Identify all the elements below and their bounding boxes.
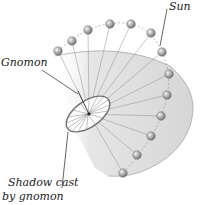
shadow-label-line1: Shadow cast <box>8 176 79 189</box>
sun-sphere <box>54 47 63 56</box>
shadow-label-line2: by gnomon <box>2 190 64 203</box>
sun-sphere <box>84 26 93 35</box>
sun-sphere <box>133 151 142 160</box>
sun-leader-line <box>160 9 167 46</box>
sun-sphere <box>158 48 167 57</box>
sun-sphere <box>147 132 156 141</box>
sun-label: Sun <box>169 0 191 13</box>
sun-sphere <box>68 37 77 46</box>
sundial-diagram: Sun Gnomon Shadow cast by gnomon <box>0 0 204 205</box>
sun-sphere <box>106 20 115 29</box>
sun-sphere <box>119 169 128 178</box>
sun-sphere <box>157 112 166 121</box>
sun-sphere <box>147 29 156 38</box>
sun-sphere <box>127 20 136 29</box>
sun-sphere <box>163 91 172 100</box>
diagram-graphic <box>0 0 204 205</box>
sun-sphere <box>165 70 174 79</box>
gnomon-label: Gnomon <box>1 56 48 69</box>
